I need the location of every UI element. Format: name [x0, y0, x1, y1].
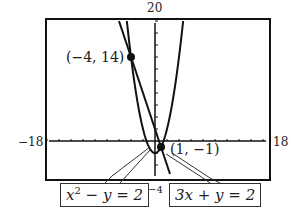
equation-label-2: 3x + y = 2	[169, 183, 261, 207]
ymin-label: −4	[148, 184, 163, 196]
point-label-1: (−4, 14)	[66, 51, 124, 63]
leader-line-eq1	[105, 147, 150, 183]
eq2-text: 3x + y = 2	[175, 186, 255, 204]
ymax-label: 20	[147, 2, 162, 14]
intersection-point-2	[157, 143, 165, 151]
leader-line-eq2	[166, 154, 210, 183]
eq1-rest: − y = 2	[81, 186, 143, 204]
intersection-point-1	[127, 53, 135, 61]
point-label-2: (1, −1)	[170, 143, 219, 155]
equation-label-1: x2 − y = 2	[60, 183, 149, 207]
plot-frame	[46, 19, 270, 180]
xmax-label: 18	[273, 136, 288, 148]
xmin-label: −18	[18, 136, 43, 148]
leader-line-eq2b	[172, 153, 220, 183]
